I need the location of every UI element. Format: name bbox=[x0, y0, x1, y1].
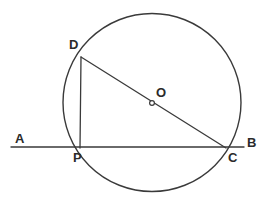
point-label-c: C bbox=[228, 151, 237, 164]
point-label-a: A bbox=[15, 132, 24, 145]
geometry-canvas bbox=[0, 0, 267, 201]
point-label-o: O bbox=[156, 86, 166, 99]
point-label-b: B bbox=[247, 136, 256, 149]
center-point-o bbox=[150, 101, 155, 106]
segment-dp bbox=[80, 57, 81, 148]
geometry-diagram: A B C D O P bbox=[0, 0, 267, 201]
point-label-p: P bbox=[73, 151, 82, 164]
point-label-d: D bbox=[69, 38, 78, 51]
